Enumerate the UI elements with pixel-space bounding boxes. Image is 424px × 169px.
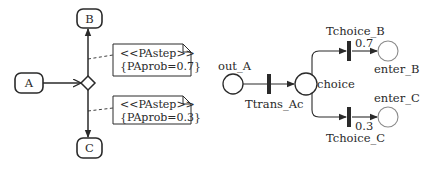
place-choice-label: choice [317, 77, 355, 91]
node-c-label: C [85, 141, 94, 155]
activity-node-b[interactable]: B [77, 9, 102, 28]
arc-choice-to-tchoice-b [312, 51, 346, 75]
activity-node-c[interactable]: C [77, 138, 102, 158]
place-choice[interactable]: choice [295, 73, 355, 95]
decision-node-diamond[interactable] [81, 76, 95, 90]
transition-ttrans-ac[interactable]: Ttrans_Ac [245, 74, 303, 111]
place-enter-b-label: enter_B [374, 62, 419, 76]
note-2-tag: {PAprob=0.3} [120, 111, 201, 124]
place-enter-c-label: enter_C [374, 91, 420, 105]
note-1-tag: {PAprob=0.7} [120, 60, 201, 73]
tchoice-b-weight: 0.7 [355, 36, 373, 50]
note-anchor-2 [88, 108, 113, 111]
transition-tchoice-c-label: Tchoice_C [326, 131, 385, 145]
node-b-label: B [85, 12, 93, 26]
diagram-canvas: B A C <<PAstep>> {PAprob=0.7} [0, 0, 424, 169]
place-enter-c[interactable]: enter_C [374, 91, 420, 127]
note-anchor-1 [88, 55, 113, 59]
note-2-stereotype: <<PAstep>> [120, 98, 195, 111]
place-enter-b[interactable]: enter_B [374, 41, 419, 76]
node-a-label: A [24, 76, 34, 90]
note-1-stereotype: <<PAstep>> [120, 47, 195, 60]
activity-diagram: B A C <<PAstep>> {PAprob=0.7} [15, 9, 201, 158]
transition-tchoice-b[interactable]: Tchoice_B 0.7 [326, 24, 385, 61]
note-pastep-2[interactable]: <<PAstep>> {PAprob=0.3} [113, 96, 201, 124]
petri-net: out_A Ttrans_Ac choice Tchoice_B 0.7 ent… [218, 24, 420, 145]
place-out-a-label: out_A [218, 59, 252, 73]
place-out-a[interactable]: out_A [218, 59, 252, 94]
note-pastep-1[interactable]: <<PAstep>> {PAprob=0.7} [113, 44, 201, 76]
arc-choice-to-tchoice-c [312, 93, 346, 117]
activity-node-a[interactable]: A [15, 73, 43, 93]
transition-ttrans-ac-label: Ttrans_Ac [245, 97, 303, 111]
transition-tchoice-c[interactable]: 0.3 Tchoice_C [326, 107, 385, 145]
